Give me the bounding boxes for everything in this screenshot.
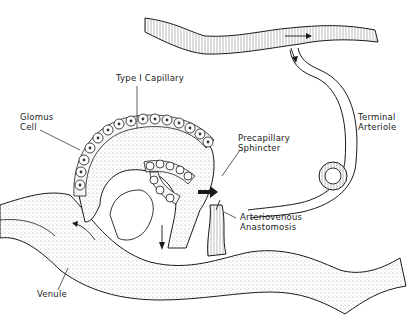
label-terminal-line2: Arteriole: [358, 122, 396, 132]
top-arteriole: [145, 18, 378, 54]
label-venule: Venule: [37, 289, 67, 299]
label-glomus-cell-line2: Cell: [20, 122, 37, 132]
label-av-line1: Arteriovenous: [240, 212, 302, 222]
anatomy-diagram: [0, 0, 408, 332]
label-terminal-line1: Terminal: [358, 112, 396, 122]
label-av-line2: Anastomosis: [240, 222, 296, 232]
label-precapillary-line1: Precapillary: [238, 133, 290, 143]
label-type1-capillary: Type I Capillary: [116, 73, 184, 83]
label-glomus-cell-line1: Glomus: [20, 112, 53, 122]
label-precapillary-line2: Sphincter: [238, 143, 280, 153]
